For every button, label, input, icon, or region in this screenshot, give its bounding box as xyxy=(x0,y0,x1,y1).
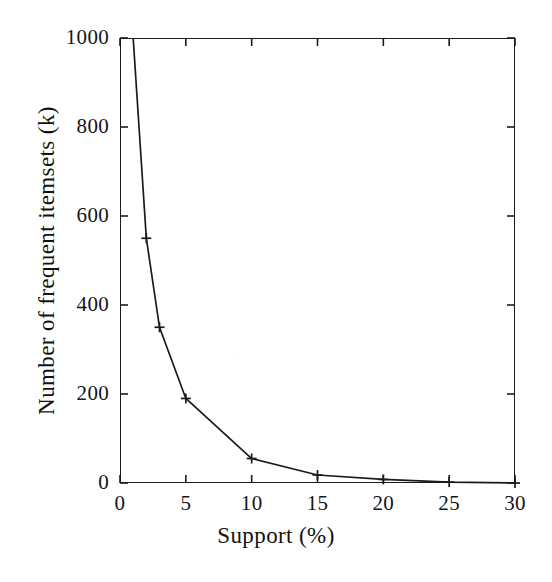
x-tick-label: 20 xyxy=(353,493,413,514)
y-tick-label: 600 xyxy=(77,205,109,226)
y-tick-label: 1000 xyxy=(66,27,109,48)
plot-frame xyxy=(120,38,515,483)
x-tick-label: 25 xyxy=(419,493,479,514)
chart-figure: 02004006008001000 051015202530 Number of… xyxy=(0,0,552,582)
y-tick-label: 0 xyxy=(98,472,109,493)
x-axis-title: Support (%) xyxy=(0,523,552,549)
x-tick-label: 30 xyxy=(485,493,545,514)
y-tick-label: 200 xyxy=(77,383,109,404)
y-tick-label: 400 xyxy=(77,294,109,315)
x-tick-label: 5 xyxy=(156,493,216,514)
x-tick-label: 10 xyxy=(222,493,282,514)
y-axis-title: Number of frequent itemsets (k) xyxy=(34,38,68,483)
x-tick-label: 15 xyxy=(288,493,348,514)
y-tick-label: 800 xyxy=(77,116,109,137)
x-tick-label: 0 xyxy=(90,493,150,514)
